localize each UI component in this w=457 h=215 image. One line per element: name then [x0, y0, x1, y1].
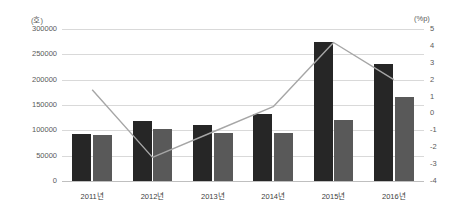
category-label: 2011년 — [62, 193, 122, 201]
left-axis-tick: 100000 — [15, 126, 57, 134]
right-axis-tick: -4 — [430, 177, 452, 185]
category-label: 2014년 — [243, 193, 303, 201]
right-axis-tick: -1 — [430, 126, 452, 134]
right-axis-tick: 3 — [430, 59, 452, 67]
right-axis-tick: 2 — [430, 76, 452, 84]
bar — [314, 42, 333, 181]
plot-area — [62, 29, 424, 181]
bar — [93, 135, 112, 181]
bar — [133, 121, 152, 181]
right-axis-tick: 1 — [430, 93, 452, 101]
category-label: 2013년 — [183, 193, 243, 201]
left-axis-tick: 150000 — [15, 101, 57, 109]
bar — [374, 64, 393, 181]
bar — [274, 133, 293, 181]
left-axis-tick: 250000 — [15, 50, 57, 58]
bar — [193, 125, 212, 181]
right-axis-unit-label: (%p) — [414, 14, 430, 23]
axis-baseline — [62, 181, 424, 182]
bar — [334, 120, 353, 181]
right-axis-tick: 5 — [430, 25, 452, 33]
left-axis-tick: 200000 — [15, 76, 57, 84]
bar — [214, 133, 233, 181]
right-axis-tick: 4 — [430, 42, 452, 50]
bar — [153, 129, 172, 181]
bar — [72, 134, 91, 181]
category-label: 2012년 — [123, 193, 183, 201]
combo-chart: (호) (%p) 3000002500002000001500001000005… — [0, 0, 457, 215]
left-axis-tick: 50000 — [15, 152, 57, 160]
right-axis-tick: -3 — [430, 160, 452, 168]
left-axis-tick: 0 — [15, 177, 57, 185]
right-axis-tick: -2 — [430, 143, 452, 151]
category-label: 2016년 — [364, 193, 424, 201]
right-axis-tick: 0 — [430, 109, 452, 117]
left-axis-tick: 300000 — [15, 25, 57, 33]
category-label: 2015년 — [304, 193, 364, 201]
bar — [253, 114, 272, 181]
bar — [395, 97, 414, 181]
